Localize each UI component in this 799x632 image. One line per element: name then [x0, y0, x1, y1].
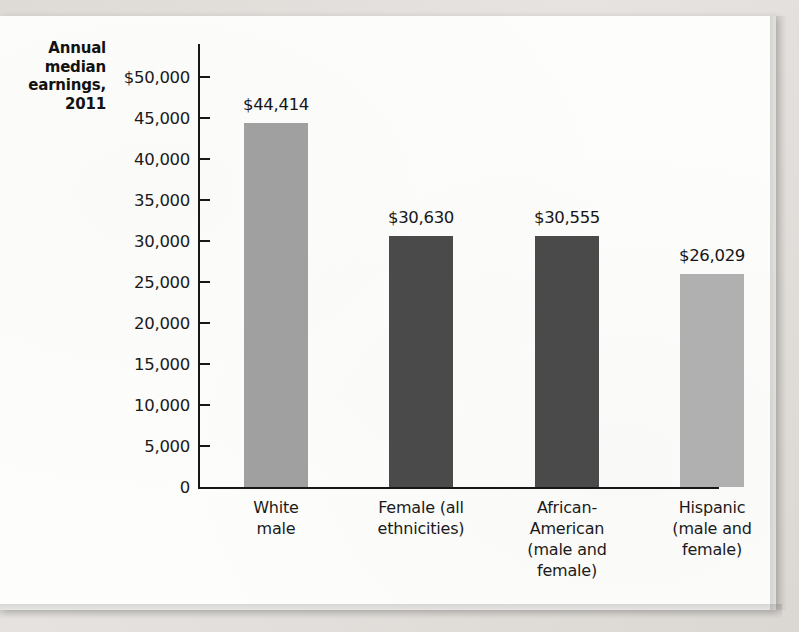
y-axis-tick-mark — [200, 158, 210, 160]
bar-value-label: $30,555 — [534, 208, 600, 227]
y-axis-title: Annual median earnings, 2011 — [6, 39, 106, 113]
y-axis-tick-mark — [200, 240, 210, 242]
y-axis-tick-label: 40,000 — [98, 150, 190, 169]
x-axis-category-label-line: ethnicities) — [378, 518, 465, 539]
y-axis-tick-label: 35,000 — [98, 191, 190, 210]
bar-value-label: $26,029 — [679, 246, 745, 265]
y-axis-tick-label: 10,000 — [98, 396, 190, 415]
bar-value-label: $30,630 — [388, 208, 454, 227]
y-axis-title-line-4: 2011 — [6, 95, 106, 114]
x-axis-category-label: Hispanic(male andfemale) — [672, 497, 751, 560]
y-axis-tick-label: 25,000 — [98, 273, 190, 292]
x-axis-category-label-line: male — [253, 518, 299, 539]
y-axis-tick-mark — [200, 117, 210, 119]
x-axis-category-label-line: White — [253, 497, 299, 518]
x-axis-category-label-line: Female (all — [378, 497, 465, 518]
y-axis-title-line-2: median — [6, 58, 106, 77]
x-axis-category-label-line: Hispanic — [672, 497, 751, 518]
bar — [389, 236, 453, 487]
y-axis-tick-label: 45,000 — [98, 109, 190, 128]
y-axis-tick-label: $50,000 — [98, 68, 190, 87]
x-axis-category-label-line: (male and — [527, 539, 606, 560]
y-axis-tick-mark — [200, 363, 210, 365]
x-axis-category-label-line: female) — [672, 539, 751, 560]
scanned-page-background: Annual median earnings, 2011 $50,00045,0… — [0, 0, 799, 632]
bar — [244, 123, 308, 487]
y-axis-tick-label: 0 — [98, 478, 190, 497]
y-axis-tick-mark — [200, 199, 210, 201]
y-axis-tick-label: 30,000 — [98, 232, 190, 251]
x-axis-category-label: African-American(male andfemale) — [527, 497, 606, 581]
x-axis-category-label-line: African- — [527, 497, 606, 518]
x-axis-category-label-line: (male and — [672, 518, 751, 539]
y-axis-line — [198, 44, 200, 489]
y-axis-title-line-3: earnings, — [6, 76, 106, 95]
bar — [680, 274, 744, 487]
x-axis-category-label: Female (allethnicities) — [378, 497, 465, 539]
y-axis-tick-mark — [200, 281, 210, 283]
y-axis-tick-label: 5,000 — [98, 437, 190, 456]
y-axis-tick-label: 20,000 — [98, 314, 190, 333]
y-axis-tick-mark — [200, 76, 210, 78]
y-axis-title-line-1: Annual — [6, 39, 106, 58]
y-axis-tick-label: 15,000 — [98, 355, 190, 374]
x-axis-category-label-line: female) — [527, 560, 606, 581]
x-axis-category-label-line: American — [527, 518, 606, 539]
x-axis-category-label: Whitemale — [253, 497, 299, 539]
y-axis-tick-labels: $50,00045,00040,00035,00030,00025,00020,… — [98, 0, 190, 632]
y-axis-tick-mark — [200, 322, 210, 324]
x-axis-line — [198, 487, 719, 489]
y-axis-tick-mark — [200, 445, 210, 447]
bar — [535, 236, 599, 487]
bar-value-label: $44,414 — [243, 95, 309, 114]
chart-layer: Annual median earnings, 2011 $50,00045,0… — [0, 0, 799, 632]
y-axis-tick-mark — [200, 404, 210, 406]
